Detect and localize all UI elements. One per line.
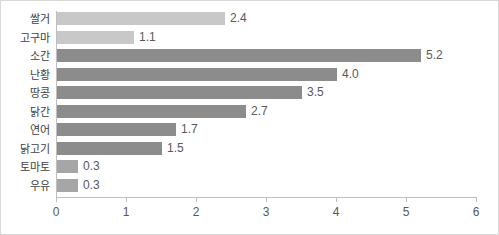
table-row: 소간5.2: [0, 49, 499, 68]
bar-value-label: 3.5: [307, 86, 324, 99]
bar: [57, 49, 421, 62]
table-row: 땅콩3.5: [0, 86, 499, 105]
x-axis-tick-label: 3: [246, 205, 286, 219]
table-row: 닭고기1.5: [0, 142, 499, 161]
category-label: 고구마: [0, 32, 50, 45]
category-label: 연어: [0, 124, 50, 137]
table-row: 닭간2.7: [0, 105, 499, 124]
bar: [57, 142, 162, 155]
category-label: 닭간: [0, 106, 50, 119]
x-axis-tick: [196, 198, 197, 202]
x-axis-tick-label: 5: [386, 205, 426, 219]
x-axis-tick: [406, 198, 407, 202]
table-row: 쌀거2.4: [0, 12, 499, 31]
bar-value-label: 1.1: [139, 31, 156, 44]
category-label: 우유: [0, 180, 50, 193]
bar: [57, 160, 78, 173]
bar-value-label: 1.7: [181, 123, 198, 136]
bar: [57, 31, 134, 44]
category-label: 난황: [0, 69, 50, 82]
x-axis-tick: [126, 198, 127, 202]
x-axis-tick-label: 4: [316, 205, 356, 219]
x-axis-tick: [266, 198, 267, 202]
bar-value-label: 4.0: [342, 68, 359, 81]
bar-value-label: 0.3: [83, 179, 100, 192]
category-label: 토마토: [0, 161, 50, 174]
x-axis-tick-label: 2: [176, 205, 216, 219]
table-row: 우유0.3: [0, 179, 499, 198]
bar: [57, 86, 302, 99]
x-axis-tick: [336, 198, 337, 202]
table-row: 고구마1.1: [0, 31, 499, 50]
category-label: 닭고기: [0, 143, 50, 156]
chart-frame-bottom: [0, 234, 499, 235]
bar-value-label: 0.3: [83, 160, 100, 173]
bar: [57, 123, 176, 136]
category-label: 땅콩: [0, 87, 50, 100]
x-axis-tick: [56, 198, 57, 202]
table-row: 토마토0.3: [0, 160, 499, 179]
bar-value-label: 2.7: [251, 105, 268, 118]
category-label: 쌀거: [0, 13, 50, 26]
x-axis-tick-label: 6: [456, 205, 496, 219]
bar: [57, 68, 337, 81]
bar-chart: 쌀거2.4고구마1.1소간5.2난황4.0땅콩3.5닭간2.7연어1.7닭고기1…: [0, 0, 499, 235]
category-label: 소간: [0, 50, 50, 63]
bar: [57, 12, 225, 25]
x-axis-tick-label: 1: [106, 205, 146, 219]
bar-value-label: 1.5: [167, 142, 184, 155]
bar-value-label: 2.4: [230, 12, 247, 25]
table-row: 연어1.7: [0, 123, 499, 142]
x-axis-tick-label: 0: [36, 205, 76, 219]
x-axis-tick: [476, 198, 477, 202]
chart-frame-top: [0, 0, 499, 1]
table-row: 난황4.0: [0, 68, 499, 87]
bar-value-label: 5.2: [426, 49, 443, 62]
bar: [57, 105, 246, 118]
bar: [57, 179, 78, 192]
